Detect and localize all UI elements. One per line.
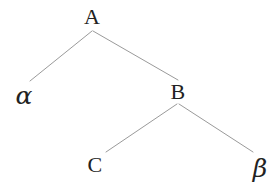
node-a: A	[84, 6, 100, 28]
tree-edges-group	[0, 0, 279, 186]
node-b: B	[171, 81, 186, 103]
node-alpha: α	[16, 83, 33, 108]
edge-b-c	[106, 104, 177, 152]
edge-a-alpha	[30, 31, 92, 81]
edge-a-b	[93, 31, 178, 80]
node-c: C	[88, 154, 103, 176]
node-beta: β	[253, 156, 267, 181]
edge-b-beta	[179, 104, 253, 152]
tree-diagram-canvas: A α B C β	[0, 0, 279, 186]
